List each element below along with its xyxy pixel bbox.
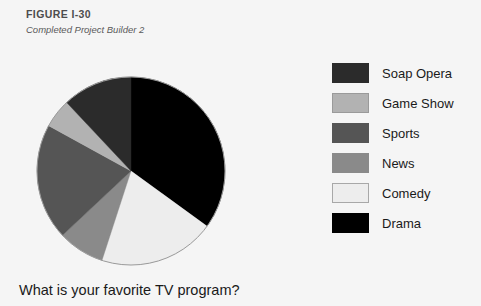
pie-slice-group [37,77,225,265]
legend-item: Game Show [332,88,478,118]
pie-chart [36,76,226,266]
legend-item: Sports [332,118,478,148]
figure-subtitle: Completed Project Builder 2 [26,23,326,36]
legend-item: Drama [332,208,478,238]
legend-item-label: Comedy [382,186,430,201]
legend-swatch-icon [332,93,369,113]
figure-number: FIGURE I-30 [26,8,326,21]
pie-chart-svg [36,76,226,266]
legend-swatch-icon [332,183,369,203]
figure-caption-block: FIGURE I-30 Completed Project Builder 2 [26,8,326,36]
legend-item-label: Drama [382,216,421,231]
survey-question-text: What is your favorite TV program? [19,281,240,299]
legend-item-label: Sports [382,126,420,141]
chart-legend: Soap OperaGame ShowSportsNewsComedyDrama [332,58,478,238]
legend-swatch-icon [332,123,369,143]
legend-item: Comedy [332,178,478,208]
legend-item: News [332,148,478,178]
legend-swatch-icon [332,213,369,233]
legend-swatch-icon [332,63,369,83]
figure-page: FIGURE I-30 Completed Project Builder 2 … [0,0,481,306]
legend-item-label: Game Show [382,96,454,111]
legend-item-label: Soap Opera [382,66,452,81]
legend-item-label: News [382,156,415,171]
legend-swatch-icon [332,153,369,173]
legend-item: Soap Opera [332,58,478,88]
